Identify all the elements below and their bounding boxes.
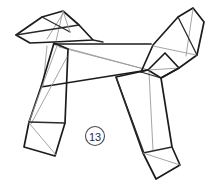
hind-leg-fold-line-a [149, 72, 153, 150]
tail-inner-edge [178, 17, 197, 55]
origami-diagram-figure: 13 [0, 0, 222, 186]
tail-base-edge [141, 72, 161, 78]
head-group [16, 11, 103, 43]
body-group [41, 44, 151, 87]
front-foot-top-edge [29, 122, 65, 123]
body-fold-middle-line [55, 45, 148, 70]
hind-foot-top-edge [143, 147, 172, 153]
tail-fold-line-a [186, 9, 193, 56]
origami-dog-drawing: 13 [0, 0, 222, 186]
body-belly-line [41, 70, 148, 87]
hind-leg-outline [116, 70, 180, 179]
haunch-outline [148, 53, 179, 78]
ear-edge-line [93, 40, 103, 42]
hind-leg-inner-edge [116, 77, 144, 153]
hind-leg-group [116, 70, 180, 179]
haunch-group [148, 53, 179, 78]
step-badge-label: 13 [89, 131, 101, 143]
head-fold-snout-crease [47, 12, 64, 39]
step-number-badge: 13 [86, 127, 105, 146]
tail-fold-line-b [153, 46, 196, 55]
